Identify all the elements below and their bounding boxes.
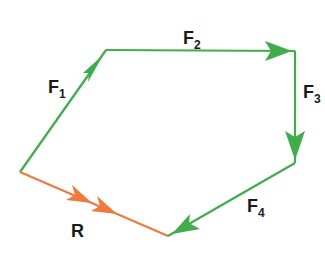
label-f2: F2 bbox=[183, 28, 201, 52]
label-resultant: R bbox=[71, 221, 84, 241]
arrowhead-f4-icon bbox=[172, 214, 200, 234]
vector-f1 bbox=[20, 50, 106, 172]
label-f4: F4 bbox=[247, 196, 265, 220]
vector-f4 bbox=[168, 163, 295, 236]
label-f3: F3 bbox=[303, 82, 321, 106]
label-f1: F1 bbox=[48, 77, 66, 101]
vector-f3 bbox=[285, 51, 305, 163]
vector-resultant bbox=[20, 172, 168, 236]
force-polygon-diagram: F1 F2 F3 F4 R bbox=[0, 0, 325, 256]
